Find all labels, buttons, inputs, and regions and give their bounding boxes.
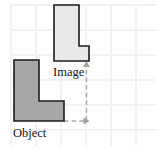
image-label: Image [53,65,85,79]
figure-canvas: Image Object [0,0,156,151]
translation-figure: Image Object [0,0,156,151]
image-shape [54,5,89,61]
object-label: Object [13,126,47,140]
